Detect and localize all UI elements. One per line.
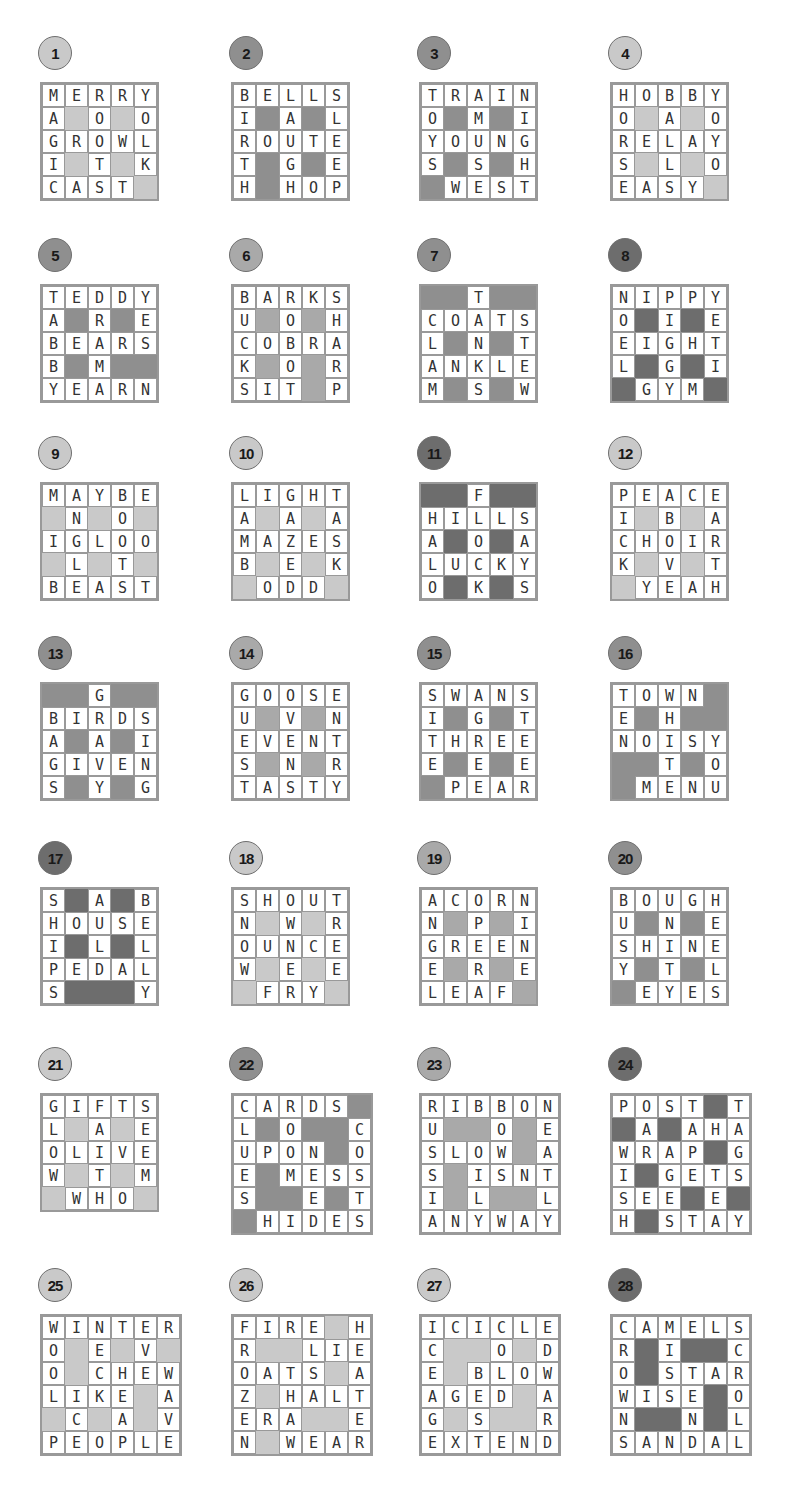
letter-cell: S	[727, 1164, 750, 1187]
letter-cell: P	[444, 776, 467, 799]
letter-cell: M	[279, 1164, 302, 1187]
letter-cell: T	[348, 1187, 371, 1210]
letter-cell: U	[658, 889, 681, 912]
puzzle-number-badge: 1	[38, 36, 72, 70]
letter-cell: B	[42, 576, 65, 599]
letter-cell: Y	[658, 981, 681, 1004]
shaded-cell	[635, 355, 658, 378]
letter-cell: L	[233, 1118, 256, 1141]
letter-cell: W	[490, 1141, 513, 1164]
letter-cell: U	[279, 130, 302, 153]
letter-cell: N	[65, 507, 88, 530]
shaded-cell	[65, 309, 88, 332]
letter-cell: G	[421, 935, 444, 958]
letter-cell: A	[325, 507, 348, 530]
letter-cell: C	[233, 332, 256, 355]
word-grid: BOUGHUNESHINEYTLEYES	[610, 887, 729, 1006]
letter-cell: Y	[42, 378, 65, 401]
letter-cell: R	[727, 1362, 750, 1385]
letter-cell: L	[302, 1339, 325, 1362]
letter-cell: S	[88, 176, 111, 199]
puzzle-number-badge: 25	[38, 1268, 72, 1302]
letter-cell: I	[65, 1316, 88, 1339]
letter-cell: O	[704, 153, 727, 176]
word-grid: HOBBYOAORELAYSLOEASY	[610, 82, 729, 201]
word-grid: RIBBONUOESLOWASISNTILLANYWAY	[419, 1093, 561, 1235]
letter-cell: V	[279, 707, 302, 730]
letter-cell: E	[302, 1316, 325, 1339]
letter-cell: R	[536, 1408, 559, 1431]
word-grid: MAYBENOIGLOOLTBEAST	[40, 482, 159, 601]
letter-cell: R	[490, 889, 513, 912]
letter-cell: B	[467, 1095, 490, 1118]
letter-cell: L	[421, 553, 444, 576]
shaded-cell	[490, 912, 513, 935]
letter-cell: M	[233, 530, 256, 553]
letter-cell: W	[444, 176, 467, 199]
letter-cell: R	[325, 355, 348, 378]
shaded-cell	[421, 286, 444, 309]
word-grid: SHOUTNWROUNCEWEEFRY	[231, 887, 350, 1006]
letter-cell: E	[513, 355, 536, 378]
letter-cell: H	[612, 84, 635, 107]
letter-cell: E	[635, 981, 658, 1004]
shaded-cell	[65, 889, 88, 912]
letter-cell: T	[42, 286, 65, 309]
shaded-cell	[65, 1164, 88, 1187]
letter-cell: A	[704, 1210, 727, 1233]
letter-cell: I	[444, 507, 467, 530]
letter-cell: L	[490, 355, 513, 378]
puzzle-number-badge: 26	[229, 1268, 263, 1302]
shaded-cell	[302, 107, 325, 130]
letter-cell: T	[421, 84, 444, 107]
letter-cell: I	[513, 107, 536, 130]
letter-cell: O	[279, 309, 302, 332]
letter-cell: I	[490, 84, 513, 107]
letter-cell: A	[233, 507, 256, 530]
letter-cell: N	[681, 935, 704, 958]
shaded-cell	[635, 912, 658, 935]
letter-cell: E	[513, 753, 536, 776]
puzzle-number-badge: 14	[229, 636, 263, 670]
letter-cell: O	[658, 530, 681, 553]
shaded-cell	[681, 1339, 704, 1362]
letter-cell: O	[421, 576, 444, 599]
letter-cell: E	[635, 130, 658, 153]
letter-cell: O	[279, 1118, 302, 1141]
letter-cell: O	[256, 684, 279, 707]
shaded-cell	[302, 153, 325, 176]
letter-cell: R	[348, 1431, 371, 1454]
letter-cell: S	[513, 309, 536, 332]
letter-cell: C	[42, 176, 65, 199]
letter-cell: T	[704, 332, 727, 355]
letter-cell: P	[256, 1141, 279, 1164]
letter-cell: T	[88, 1164, 111, 1187]
letter-cell: T	[325, 730, 348, 753]
shaded-cell	[513, 1118, 536, 1141]
letter-cell: K	[612, 553, 635, 576]
letter-cell: O	[348, 1141, 371, 1164]
shaded-cell	[65, 153, 88, 176]
letter-cell: A	[42, 730, 65, 753]
letter-cell: A	[658, 1141, 681, 1164]
letter-cell: S	[302, 684, 325, 707]
letter-cell: S	[302, 1362, 325, 1385]
shaded-cell	[704, 1095, 727, 1118]
shaded-cell	[681, 507, 704, 530]
letter-cell: S	[134, 1095, 157, 1118]
letter-cell: H	[704, 1118, 727, 1141]
letter-cell: M	[421, 378, 444, 401]
letter-cell: P	[325, 176, 348, 199]
puzzle-number-badge: 10	[229, 436, 263, 470]
letter-cell: C	[233, 1095, 256, 1118]
letter-cell: W	[111, 130, 134, 153]
shaded-cell	[256, 553, 279, 576]
letter-cell: U	[444, 553, 467, 576]
letter-cell: Y	[134, 84, 157, 107]
letter-cell: E	[325, 130, 348, 153]
letter-cell: S	[681, 730, 704, 753]
shaded-cell	[681, 1187, 704, 1210]
letter-cell: Y	[421, 130, 444, 153]
letter-cell: S	[658, 1210, 681, 1233]
letter-cell: H	[233, 176, 256, 199]
